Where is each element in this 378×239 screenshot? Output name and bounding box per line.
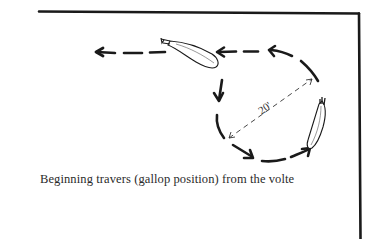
exit-path [96, 48, 165, 56]
diagram-canvas: 20' Beginning travers (gallop position) … [0, 0, 378, 239]
volte-path [214, 80, 310, 161]
diameter-label: 20' [256, 99, 274, 116]
horse-right-icon [307, 97, 325, 149]
figure-caption: Beginning travers (gallop position) from… [40, 172, 294, 187]
volte-to-track-path [217, 46, 318, 81]
horse-top-icon [161, 38, 218, 68]
